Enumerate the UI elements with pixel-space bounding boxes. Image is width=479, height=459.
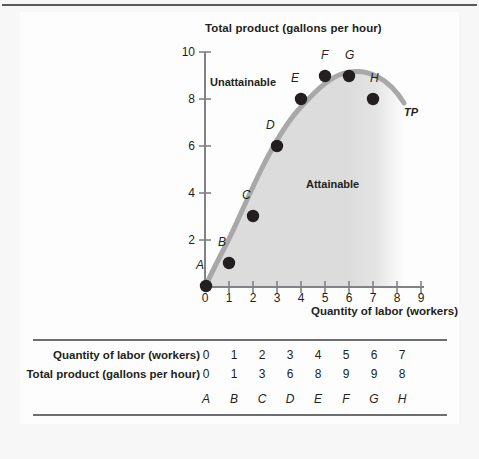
- x-tick-label-2: 2: [244, 291, 262, 305]
- y-tick-label-10: 10: [173, 45, 195, 59]
- x-tick-label-6: 6: [340, 291, 358, 305]
- table-cell: 8: [392, 367, 412, 381]
- y-tick-label-8: 8: [173, 92, 195, 106]
- x-tick-label-8: 8: [388, 291, 406, 305]
- y-tick-label-4: 4: [173, 186, 195, 200]
- table-point-cell: A: [196, 392, 216, 406]
- x-tick-label-0: 0: [196, 291, 214, 305]
- table-cell: 9: [364, 367, 384, 381]
- point-label-a: A: [196, 258, 204, 272]
- table-cell: 5: [336, 348, 356, 362]
- table-point-cell: H: [392, 392, 412, 406]
- data-point-g: [343, 70, 355, 82]
- table-point-cell: D: [280, 392, 300, 406]
- x-tick-label-9: 9: [412, 291, 430, 305]
- data-point-c: [247, 210, 259, 222]
- data-point-b: [223, 257, 235, 269]
- table-point-cell: F: [336, 392, 356, 406]
- table-top-rule: [33, 339, 447, 341]
- table-point-cell: E: [308, 392, 328, 406]
- point-label-e: E: [291, 71, 299, 85]
- point-label-b: B: [218, 235, 226, 249]
- table-cell: 2: [252, 348, 272, 362]
- point-label-d: D: [266, 118, 275, 132]
- x-axis-title: Quantity of labor (workers): [311, 305, 458, 317]
- chart-area: Total product (gallons per hour): [0, 0, 479, 330]
- table-bottom-rule: [33, 414, 447, 416]
- x-tick-label-1: 1: [220, 291, 238, 305]
- data-table: Quantity of labor (workers) 0 1 2 3 4 5 …: [0, 330, 479, 459]
- x-tick-label-7: 7: [364, 291, 382, 305]
- table-cell: 6: [280, 367, 300, 381]
- table-cell: 7: [392, 348, 412, 362]
- data-point-f: [319, 70, 331, 82]
- table-cell: 0: [196, 367, 216, 381]
- data-point-h: [367, 93, 379, 105]
- table-cell: 1: [224, 367, 244, 381]
- table-cell: 9: [336, 367, 356, 381]
- point-label-f: F: [321, 48, 328, 62]
- point-label-h: H: [370, 71, 379, 85]
- table-cell: 4: [308, 348, 328, 362]
- table-cell: 0: [196, 348, 216, 362]
- figure-card: Total product (gallons per hour): [0, 0, 479, 459]
- y-tick-label-6: 6: [173, 139, 195, 153]
- table-point-cell: G: [364, 392, 384, 406]
- x-tick-label-3: 3: [268, 291, 286, 305]
- table-row-label-product: Total product (gallons per hour): [26, 368, 200, 380]
- x-tick-label-4: 4: [292, 291, 310, 305]
- table-row-label-quantity: Quantity of labor (workers): [53, 349, 200, 361]
- x-tick-label-5: 5: [316, 291, 334, 305]
- table-cell: 6: [364, 348, 384, 362]
- table-point-cell: C: [252, 392, 272, 406]
- attainable-label: Attainable: [306, 178, 359, 190]
- data-point-e: [295, 93, 307, 105]
- point-label-c: C: [242, 188, 251, 202]
- y-tick-label-2: 2: [173, 233, 195, 247]
- table-cell: 1: [224, 348, 244, 362]
- data-point-d: [271, 140, 283, 152]
- table-cell: 3: [280, 348, 300, 362]
- table-cell: 8: [308, 367, 328, 381]
- table-point-cell: B: [224, 392, 244, 406]
- tp-curve-label: TP: [404, 106, 418, 118]
- chart-plot: [0, 0, 479, 330]
- unattainable-label: Unattainable: [210, 76, 276, 88]
- point-label-g: G: [345, 48, 354, 62]
- table-cell: 3: [252, 367, 272, 381]
